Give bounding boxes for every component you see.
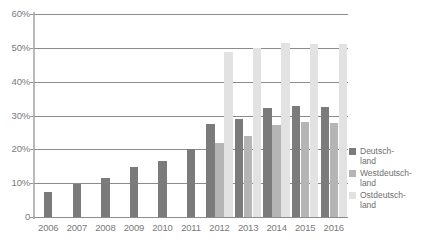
bar-2013-deutschland: [235, 119, 243, 217]
bar-2013-ostdeutschland: [253, 48, 261, 217]
y-axis-tick-label: 60%: [0, 9, 30, 19]
y-axis-tick-label: 20%: [0, 144, 30, 154]
bar-chart: 010%20%30%40%50%60% 20062007200820092010…: [0, 0, 423, 249]
bar-2016-ostdeutschland: [339, 44, 347, 217]
legend-label-line2: land: [360, 201, 423, 211]
bar-group-2006: [34, 14, 63, 217]
x-axis-tick-label: 2015: [291, 222, 320, 234]
legend-swatch-icon: [349, 170, 356, 177]
bar-2006-deutschland: [44, 192, 52, 217]
x-axis-tick-label: 2013: [234, 222, 263, 234]
bar-2015-westdeutschland: [301, 122, 309, 217]
y-axis-tick-label: 50%: [0, 43, 30, 53]
bar-group-2010: [148, 14, 177, 217]
legend-label-line2: land: [360, 179, 423, 189]
bar-group-2012: [205, 14, 234, 217]
bar-2008-deutschland: [101, 178, 109, 217]
y-axis-tick-label: 40%: [0, 77, 30, 87]
bar-group-2014: [262, 14, 291, 217]
bar-group-2009: [120, 14, 149, 217]
x-axis-tick-label: 2006: [34, 222, 63, 234]
x-axis-tick-label: 2014: [262, 222, 291, 234]
bar-2012-ostdeutschland: [224, 52, 232, 217]
bar-group-2016: [319, 14, 348, 217]
chart-legend: Deutsch-landWestdeutsch-landOstdeutsch-l…: [348, 147, 423, 214]
x-axis-labels: 2006200720082009201020112012201320142015…: [34, 222, 348, 238]
x-axis-tick-label: 2012: [205, 222, 234, 234]
y-axis-tick-label: 30%: [0, 111, 30, 121]
x-axis-tick-label: 2010: [148, 222, 177, 234]
legend-swatch-icon: [349, 192, 356, 199]
x-axis-tick-label: 2008: [91, 222, 120, 234]
bar-2010-deutschland: [158, 161, 166, 218]
bar-group-2015: [291, 14, 320, 217]
bar-2009-deutschland: [130, 167, 138, 217]
x-axis-tick-label: 2011: [177, 222, 206, 234]
bar-2011-deutschland: [187, 149, 195, 217]
legend-item-ostdeutschland[interactable]: Ostdeutsch-land: [348, 191, 423, 210]
bar-2012-westdeutschland: [215, 143, 223, 217]
bar-2016-westdeutschland: [330, 123, 338, 217]
y-axis-labels: 010%20%30%40%50%60%: [0, 0, 30, 249]
legend-item-deutschland[interactable]: Deutsch-land: [348, 147, 423, 166]
gridline-0: [34, 217, 348, 218]
y-axis-tick-label: 0: [0, 212, 30, 222]
x-axis-tick-label: 2007: [63, 222, 92, 234]
bars-layer: [34, 14, 348, 217]
bar-group-2013: [234, 14, 263, 217]
bar-2013-westdeutschland: [244, 136, 252, 217]
bar-2016-deutschland: [321, 107, 329, 217]
bar-2015-ostdeutschland: [310, 44, 318, 217]
x-axis-tick-label: 2016: [319, 222, 348, 234]
bar-group-2007: [63, 14, 92, 217]
bar-group-2008: [91, 14, 120, 217]
bar-2014-ostdeutschland: [281, 43, 289, 217]
y-axis-tick-label: 10%: [0, 178, 30, 188]
legend-item-westdeutschland[interactable]: Westdeutsch-land: [348, 169, 423, 188]
bar-2015-deutschland: [292, 106, 300, 217]
bar-group-2011: [177, 14, 206, 217]
bar-2014-westdeutschland: [272, 125, 280, 217]
legend-label-line2: land: [360, 157, 423, 167]
bar-2012-deutschland: [206, 124, 214, 217]
x-axis-tick-label: 2009: [120, 222, 149, 234]
bar-2014-deutschland: [263, 108, 271, 217]
bar-2007-deutschland: [73, 184, 81, 217]
legend-swatch-icon: [349, 148, 356, 155]
